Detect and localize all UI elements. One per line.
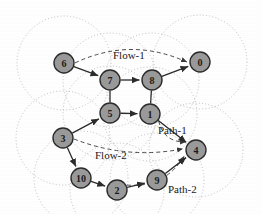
node-label-9: 9 xyxy=(155,175,160,186)
node-3[interactable]: 3 xyxy=(53,128,73,148)
node-label-8: 8 xyxy=(150,75,155,86)
node-label-5: 5 xyxy=(108,108,113,119)
link-edge-10-2 xyxy=(91,181,105,186)
node-6[interactable]: 6 xyxy=(54,53,74,73)
link-edge-9-4 xyxy=(165,158,186,174)
node-7[interactable]: 7 xyxy=(100,70,120,90)
node-label-2: 2 xyxy=(115,185,120,196)
node-0[interactable]: 0 xyxy=(190,52,210,72)
diagram-canvas: 678051341029 Flow-1Flow-2Path-1Path-2 xyxy=(0,0,262,214)
node-label-6: 6 xyxy=(62,58,67,69)
caption-flow-2: Flow-2 xyxy=(95,149,127,161)
node-4[interactable]: 4 xyxy=(186,140,206,160)
node-label-3: 3 xyxy=(61,133,66,144)
node-label-7: 7 xyxy=(108,75,113,86)
link-edge-6-7 xyxy=(74,67,98,76)
network-diagram-figure: 678051341029 Flow-1Flow-2Path-1Path-2 xyxy=(0,0,262,214)
node-9[interactable]: 9 xyxy=(147,170,167,190)
node-label-1: 1 xyxy=(148,109,153,120)
node-label-10: 10 xyxy=(76,173,86,184)
caption-path-2: Path-2 xyxy=(168,183,197,195)
node-label-4: 4 xyxy=(194,145,199,156)
link-edge-3-10 xyxy=(67,148,76,167)
node-2[interactable]: 2 xyxy=(107,180,127,200)
node-label-0: 0 xyxy=(198,57,203,68)
link-edge-3-5 xyxy=(72,119,99,133)
node-1[interactable]: 1 xyxy=(140,104,160,124)
flow-edge-flow-2 xyxy=(74,139,183,153)
flow-path-dashed-edges xyxy=(74,50,187,186)
node-5[interactable]: 5 xyxy=(100,103,120,123)
caption-flow-1: Flow-1 xyxy=(113,49,145,61)
node-8[interactable]: 8 xyxy=(142,70,162,90)
caption-path-1: Path-1 xyxy=(158,124,187,136)
link-edge-8-1 xyxy=(151,90,152,103)
transmission-range-circles xyxy=(16,15,247,214)
link-edge-8-0 xyxy=(162,66,188,76)
node-10[interactable]: 10 xyxy=(71,168,91,188)
